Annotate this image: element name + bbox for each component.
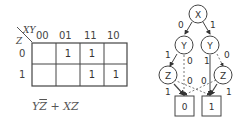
col-var-label: XY — [23, 25, 35, 35]
node-label: Z — [220, 71, 226, 81]
kmap-cell — [104, 43, 128, 64]
edge-x-yr — [203, 22, 210, 34]
edge-zr-t1 — [210, 84, 217, 95]
boolean-expression: YZ + XZ — [32, 100, 79, 113]
edge-label: 1 — [226, 87, 232, 97]
kmap-cell: 1 — [104, 64, 128, 85]
edge-label: 0 — [201, 76, 207, 86]
col-header: 00 — [36, 30, 49, 41]
expr-term-zbar: Z — [39, 100, 47, 113]
row-var-label: Z — [16, 36, 22, 46]
edge-label: 0 — [187, 56, 193, 66]
expr-term-xz: XZ — [63, 100, 78, 113]
node-label: X — [195, 10, 201, 20]
edge-label: 0 — [187, 76, 193, 86]
edge-label: 0 — [178, 20, 184, 30]
row-header: 1 — [19, 69, 25, 80]
edge-label: 1 — [210, 20, 216, 30]
edge-zl-t0 — [174, 84, 184, 95]
edge-yl-zl — [170, 54, 177, 66]
col-header: 10 — [107, 30, 120, 41]
terminal-label: 0 — [182, 102, 188, 112]
node-label: Y — [180, 41, 187, 51]
row-header: 0 — [19, 48, 25, 59]
terminal-label: 1 — [209, 102, 215, 112]
kmap-cell: 1 — [80, 64, 104, 85]
kmap-cell: 1 — [80, 43, 104, 64]
node-label: Y — [206, 41, 213, 51]
node-label: Z — [165, 71, 171, 81]
edge-label: 1 — [204, 56, 210, 66]
edge-label: 1 — [165, 87, 171, 97]
edge-label: 1 — [165, 50, 171, 60]
kmap-cell — [56, 64, 80, 85]
edge-x-yl — [185, 22, 192, 34]
edge-label: 0 — [224, 50, 230, 60]
expr-plus: + — [47, 100, 63, 113]
edge-yr-zr — [217, 54, 223, 66]
karnaugh-map: XY Z 00 01 11 10 0 1 1 1 1 1 YZ + XZ — [0, 0, 130, 127]
kmap-cell — [32, 43, 56, 64]
col-header: 01 — [59, 30, 72, 41]
col-header: 11 — [84, 30, 97, 41]
kmap-cell — [32, 64, 56, 85]
kmap-cell: 1 — [56, 43, 80, 64]
binary-decision-diagram: 0 1 1 0 1 0 0 1 0 1 X Y Y Z Z 0 1 — [130, 0, 245, 127]
